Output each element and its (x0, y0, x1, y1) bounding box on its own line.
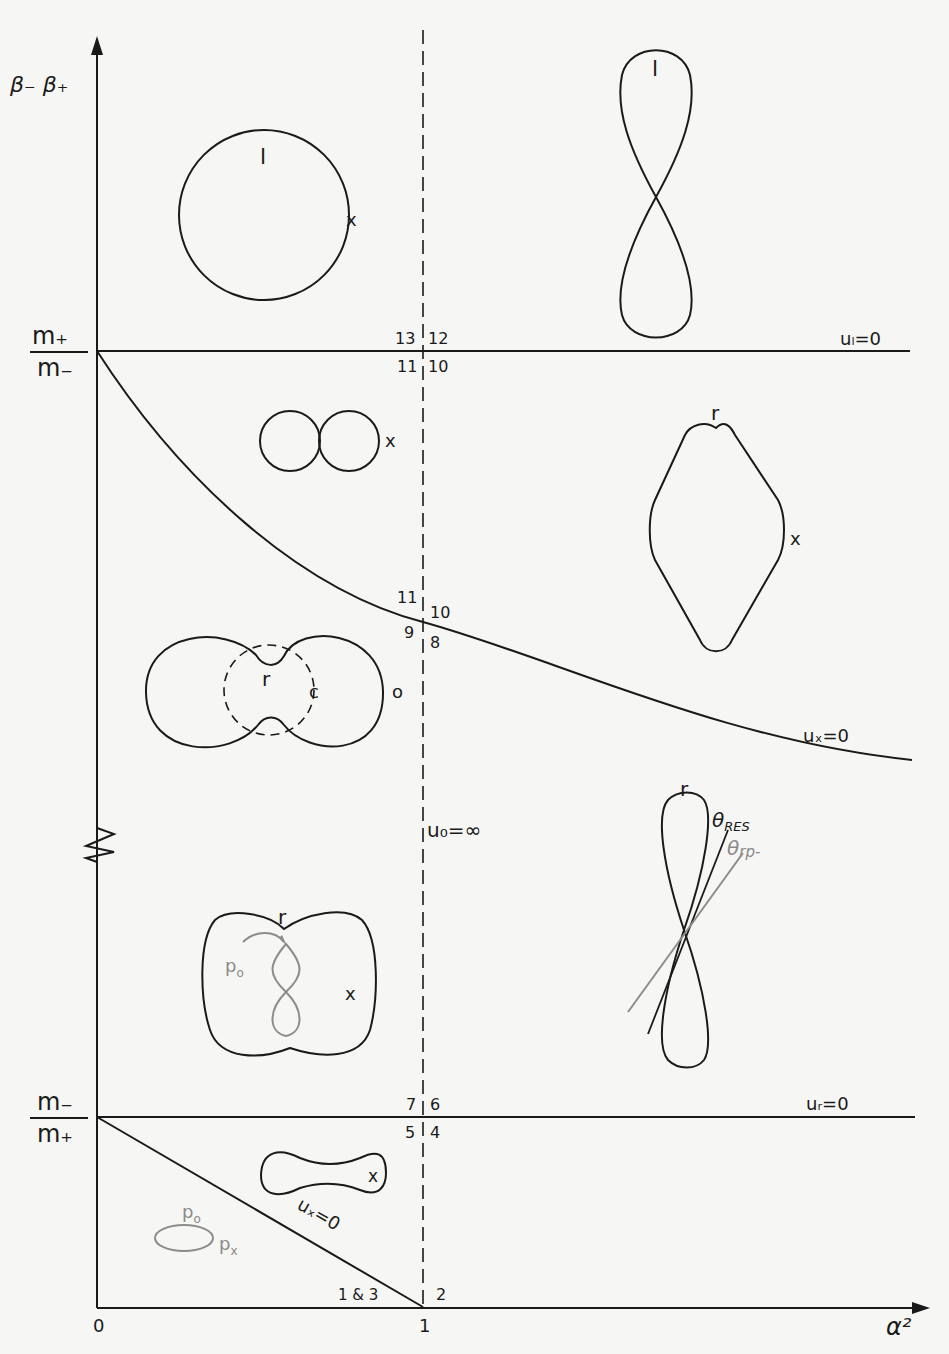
region-1-and-3: 1 & 3 (338, 1286, 378, 1304)
u-x-zero-curve-label: uₓ=0 (803, 725, 849, 746)
diamond-label-x: x (790, 528, 801, 549)
svg-text:m₊: m₊ (37, 1120, 73, 1148)
double-circle-label-x: x (385, 430, 396, 451)
overlap-circles-shape (146, 636, 383, 747)
apple-label-po: po (225, 955, 244, 980)
double-circle-left (260, 411, 320, 471)
region-13: 13 (395, 329, 415, 348)
region-10-top: 10 (428, 357, 448, 376)
region-5: 5 (405, 1123, 415, 1142)
diamond-shape (650, 424, 784, 651)
circle-label-x: x (346, 209, 357, 230)
diamond-label-r: r (711, 401, 720, 425)
svg-text:m₊: m₊ (32, 322, 68, 350)
overlap-label-o: o (392, 681, 403, 702)
u-x-zero-diagonal (97, 1117, 423, 1307)
elongated-loop-shape (662, 793, 708, 1068)
x-axis (97, 1302, 930, 1314)
dogbone-label-x: x (368, 1166, 378, 1186)
po-arrow-head-icon (279, 935, 287, 946)
gray-ellipse (155, 1225, 213, 1251)
x-tick-0: 0 (93, 1315, 104, 1336)
u-o-infinity-label: u₀=∞ (427, 818, 481, 842)
theta-rp-line (628, 853, 743, 1012)
double-circle-right (319, 411, 379, 471)
overlap-label-c: c (309, 681, 319, 702)
po-arrow (243, 933, 284, 942)
x-axis-arrow-icon (912, 1302, 930, 1314)
region-6: 6 (430, 1095, 440, 1114)
region-11-top: 11 (397, 357, 417, 376)
region-4: 4 (430, 1123, 440, 1142)
svg-text:m₋: m₋ (37, 354, 73, 382)
u-r-zero-label: uᵣ=0 (806, 1093, 849, 1114)
inner-figure-eight (273, 944, 300, 1036)
theta-rp-label: θrp- (727, 836, 760, 861)
u-l-zero-label: uₗ=0 (840, 328, 881, 349)
loop-label-r: r (680, 777, 689, 801)
u-x-zero-curve (97, 351, 912, 760)
region-10-mid: 10 (430, 603, 450, 622)
region-9: 9 (404, 623, 414, 642)
circle-label-l: l (260, 144, 266, 169)
fig8-label-l: l (652, 56, 658, 81)
y-axis-label: β₋ β₊ (9, 72, 68, 97)
x-tick-1: 1 (419, 1315, 430, 1336)
theta-res-label: θRES (712, 808, 750, 834)
u-x-zero-diag-label: uₓ=0 (294, 1193, 344, 1234)
region-11-mid: 11 (397, 588, 417, 607)
apple-label-r: r (278, 905, 287, 929)
y-tick-lower: m₋ m₊ (30, 1088, 88, 1148)
svg-text:m₋: m₋ (37, 1088, 73, 1116)
x-axis-label: α² (886, 1313, 912, 1341)
apple-label-x: x (345, 983, 356, 1004)
y-tick-upper: m₊ m₋ (30, 322, 88, 382)
theta-res-line (648, 830, 728, 1034)
figure-eight-shape (620, 50, 691, 337)
overlap-label-r: r (262, 667, 271, 691)
y-axis-arrow-icon (91, 36, 103, 55)
ellipse-label-po: po (182, 1201, 201, 1226)
phase-diagram: β₋ β₊ m₊ m₋ m₋ m₊ 0 1 α² uₗ=0 uₓ=0 uᵣ=0 … (0, 0, 949, 1354)
region-8: 8 (430, 633, 440, 652)
ellipse-label-px: px (219, 1233, 238, 1258)
region-12: 12 (428, 329, 448, 348)
region-7: 7 (406, 1095, 416, 1114)
region-2: 2 (436, 1285, 446, 1304)
